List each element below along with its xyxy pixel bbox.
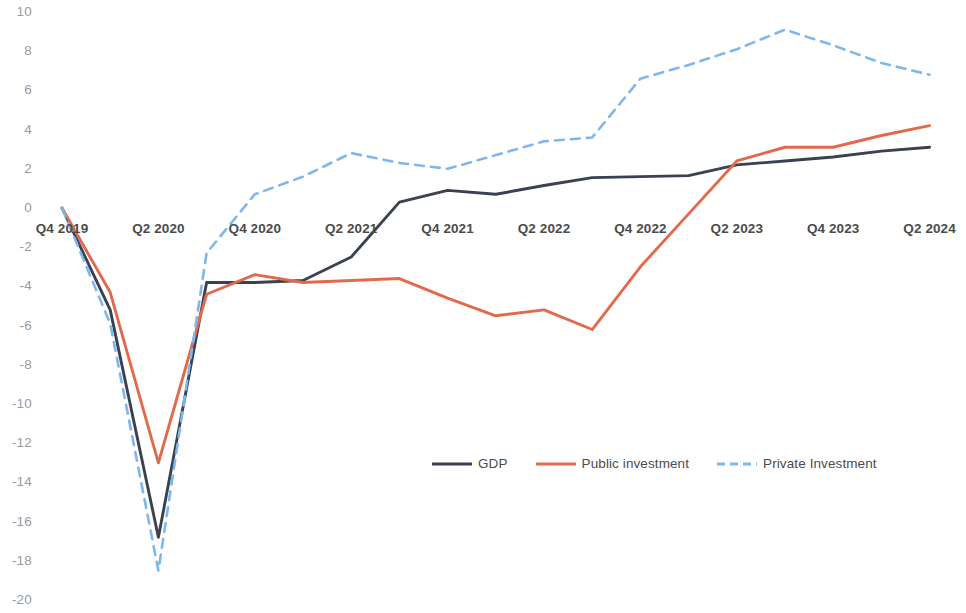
chart-plot-area — [0, 0, 966, 613]
y-axis-tick-label: 6 — [2, 83, 32, 97]
x-axis-tick-label: Q4 2019 — [17, 222, 107, 236]
legend-label: Private Investment — [763, 456, 877, 471]
x-axis-tick-label: Q4 2022 — [595, 222, 685, 236]
x-axis-tick-label: Q2 2022 — [499, 222, 589, 236]
y-axis-tick-label: 4 — [2, 123, 32, 137]
dashed-line-swatch — [717, 458, 757, 470]
y-axis-tick-label: 2 — [2, 162, 32, 176]
legend-label: GDP — [478, 456, 508, 471]
series-line-public-investment — [62, 126, 930, 463]
x-axis-tick-label: Q2 2023 — [692, 222, 782, 236]
series-layer — [62, 30, 930, 571]
y-axis-tick-label: -6 — [2, 319, 32, 333]
x-axis-tick-label: Q4 2020 — [210, 222, 300, 236]
x-axis-tick-label: Q2 2021 — [306, 222, 396, 236]
y-axis-tick-label: -10 — [2, 397, 32, 411]
x-axis-tick-label: Q2 2020 — [113, 222, 203, 236]
x-axis-tick-label: Q4 2021 — [403, 222, 493, 236]
y-axis-tick-label: -16 — [2, 515, 32, 529]
legend-item-private-investment[interactable]: Private Investment — [717, 456, 877, 471]
x-axis-tick-label: Q2 2024 — [885, 222, 966, 236]
y-axis-tick-label: -12 — [2, 436, 32, 450]
legend-item-gdp[interactable]: GDP — [432, 456, 508, 471]
y-axis-tick-label: -20 — [2, 593, 32, 607]
y-axis-tick-label: -4 — [2, 279, 32, 293]
legend-label: Public investment — [582, 456, 690, 471]
legend-item-public-investment[interactable]: Public investment — [536, 456, 690, 471]
y-axis-tick-label: 8 — [2, 44, 32, 58]
y-axis-tick-label: -8 — [2, 358, 32, 372]
x-axis-tick-label: Q4 2023 — [788, 222, 878, 236]
y-axis-tick-label: 0 — [2, 201, 32, 215]
y-axis-tick-label: -18 — [2, 554, 32, 568]
y-axis-tick-label: -2 — [2, 240, 32, 254]
series-line-private-investment — [62, 30, 930, 571]
y-axis-tick-label: 10 — [2, 5, 32, 19]
solid-line-swatch — [536, 458, 576, 470]
y-axis-tick-label: -14 — [2, 475, 32, 489]
chart-legend: GDPPublic investmentPrivate Investment — [432, 456, 877, 471]
solid-line-swatch — [432, 458, 472, 470]
line-chart: 1086420-2-4-6-8-10-12-14-16-18-20 Q4 201… — [0, 0, 966, 613]
